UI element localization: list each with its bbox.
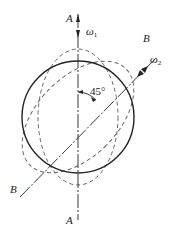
angle-label: 45° (90, 85, 105, 97)
angle-arrow-left-icon (78, 90, 83, 94)
axis-b-top-label: B (143, 32, 150, 44)
omega2-arrow-icon (141, 66, 148, 73)
omega1-arrow-down-icon (76, 30, 80, 38)
rotation-diagram: A ω1 B ω2 45° B A (0, 0, 169, 226)
omega1-label: ω1 (86, 25, 98, 39)
omega1-arrow-up-icon (76, 14, 80, 22)
axis-b-bottom-label: B (10, 183, 17, 195)
axis-a-top-label: A (65, 12, 73, 24)
axis-a-bottom-label: A (65, 214, 73, 226)
axis-b-line (20, 57, 157, 197)
omega2-label: ω2 (150, 53, 162, 67)
